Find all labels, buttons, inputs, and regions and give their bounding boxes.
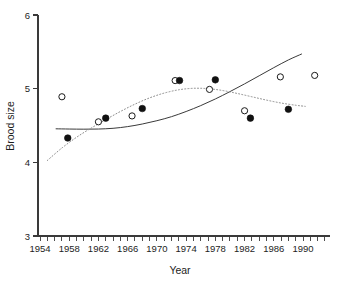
x-tick-label: 1954 — [29, 243, 50, 254]
y-axis-title: Brood size — [4, 101, 16, 151]
x-tick-label: 1958 — [59, 243, 80, 254]
x-tick-label: 1990 — [292, 243, 313, 254]
chart-figure: 1954195819621966197019741978198219861990… — [0, 0, 340, 282]
open-circle-marker — [277, 74, 283, 80]
open-circle-marker — [59, 94, 65, 100]
open-circle-marker — [95, 119, 101, 125]
x-tick-label: 1974 — [176, 243, 197, 254]
filled-circle-marker — [285, 106, 292, 113]
x-tick-label: 1966 — [117, 243, 138, 254]
open-circle-marker — [206, 86, 212, 92]
open-circle-marker — [312, 72, 318, 78]
open-circle-marker — [241, 108, 247, 114]
open-circle-marker — [129, 113, 135, 119]
filled-circle-marker — [64, 135, 71, 142]
y-tick-label: 6 — [25, 10, 30, 21]
x-tick-label: 1962 — [88, 243, 109, 254]
filled-circle-marker — [212, 77, 219, 84]
x-tick-label: 1982 — [234, 243, 255, 254]
x-axis-title: Year — [169, 264, 191, 276]
plot-background — [0, 0, 340, 282]
x-tick-label: 1986 — [263, 243, 284, 254]
y-tick-label: 3 — [25, 231, 30, 242]
y-tick-label: 5 — [25, 83, 30, 94]
filled-circle-marker — [102, 115, 109, 122]
x-tick-label: 1970 — [146, 243, 167, 254]
filled-circle-marker — [139, 105, 146, 112]
filled-circle-marker — [247, 115, 254, 122]
filled-circle-marker — [176, 77, 183, 84]
x-tick-label: 1978 — [205, 243, 226, 254]
y-tick-label: 4 — [25, 157, 30, 168]
scatter-plot-svg: 1954195819621966197019741978198219861990… — [0, 0, 340, 282]
